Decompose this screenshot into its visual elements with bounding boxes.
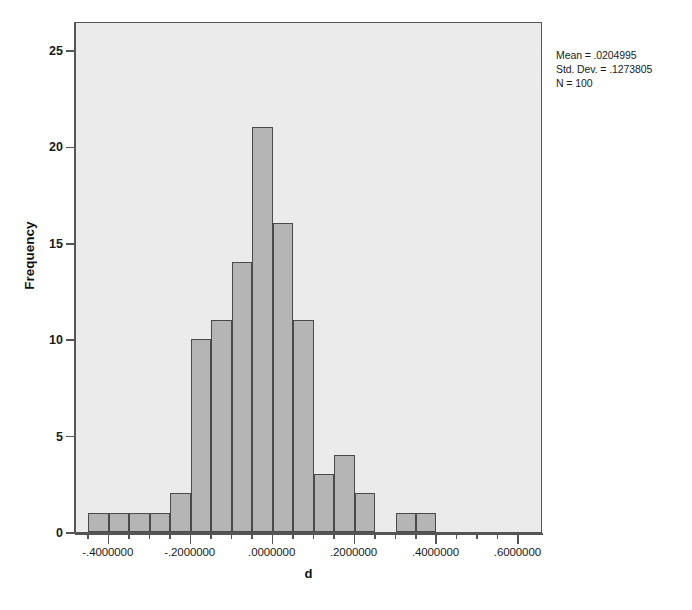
histogram-bar bbox=[314, 474, 334, 532]
y-axis-tick-label: 25 bbox=[33, 45, 63, 58]
histogram-bar bbox=[273, 223, 293, 532]
x-axis-minor-tick bbox=[497, 534, 499, 539]
histogram-bar bbox=[150, 513, 170, 532]
x-axis-minor-tick bbox=[313, 534, 315, 539]
x-axis-minor-tick bbox=[415, 534, 417, 539]
y-axis-tick-label: 20 bbox=[33, 141, 63, 154]
y-axis-title: Frequency bbox=[22, 196, 37, 316]
x-axis-minor-tick bbox=[333, 534, 335, 539]
y-axis-tick bbox=[66, 339, 75, 341]
histogram-bar bbox=[355, 493, 375, 532]
histogram-bar bbox=[252, 127, 272, 532]
histogram-bar bbox=[334, 455, 354, 532]
histogram-bar bbox=[170, 493, 190, 532]
x-axis-minor-tick bbox=[210, 534, 212, 539]
histogram-bars bbox=[76, 23, 541, 532]
x-axis-minor-tick bbox=[395, 534, 397, 539]
x-axis-minor-tick bbox=[374, 534, 376, 539]
x-axis-tick bbox=[435, 534, 437, 544]
x-axis-tick bbox=[190, 534, 192, 544]
x-axis-minor-tick bbox=[456, 534, 458, 539]
stat-stddev: Std. Dev. = .1273805 bbox=[556, 63, 652, 77]
x-axis-line bbox=[75, 533, 543, 535]
y-axis-tick bbox=[66, 532, 75, 534]
y-axis-tick-label: 0 bbox=[33, 527, 63, 540]
x-axis-title: d bbox=[75, 566, 542, 581]
y-axis-tick bbox=[66, 243, 75, 245]
x-axis-minor-tick bbox=[87, 534, 89, 539]
x-axis-minor-tick bbox=[169, 534, 171, 539]
histogram-bar bbox=[109, 513, 129, 532]
x-axis-minor-tick bbox=[128, 534, 130, 539]
x-axis-tick bbox=[272, 534, 274, 544]
histogram-bar bbox=[232, 262, 252, 532]
histogram-bar bbox=[211, 320, 231, 532]
x-axis-minor-tick bbox=[292, 534, 294, 539]
stat-n: N = 100 bbox=[556, 77, 652, 91]
y-axis-tick bbox=[66, 50, 75, 52]
x-axis-minor-tick bbox=[231, 534, 233, 539]
y-axis-tick bbox=[66, 436, 75, 438]
y-axis-tick bbox=[66, 147, 75, 149]
x-axis-tick bbox=[108, 534, 110, 544]
stat-mean: Mean = .0204995 bbox=[556, 49, 652, 63]
histogram-bar bbox=[396, 513, 416, 532]
plot-area bbox=[75, 22, 542, 533]
histogram-bar bbox=[129, 513, 149, 532]
histogram-bar bbox=[293, 320, 313, 532]
histogram-bar bbox=[191, 339, 211, 532]
x-axis-minor-tick bbox=[476, 534, 478, 539]
statistics-annotation: Mean = .0204995 Std. Dev. = .1273805 N =… bbox=[556, 49, 652, 91]
y-axis-tick-label: 10 bbox=[33, 334, 63, 347]
x-axis-minor-tick bbox=[149, 534, 151, 539]
histogram-chart: 0510152025 Frequency -.4000000-.2000000.… bbox=[0, 0, 692, 610]
x-axis-tick bbox=[517, 534, 519, 544]
x-axis-tick bbox=[354, 534, 356, 544]
x-axis-tick-label: .6000000 bbox=[462, 546, 572, 558]
histogram-bar bbox=[416, 513, 436, 532]
histogram-bar bbox=[88, 513, 108, 532]
x-axis-minor-tick bbox=[251, 534, 253, 539]
y-axis-line bbox=[74, 22, 76, 534]
y-axis-tick-label: 5 bbox=[33, 431, 63, 444]
y-axis-tick-label: 15 bbox=[33, 238, 63, 251]
